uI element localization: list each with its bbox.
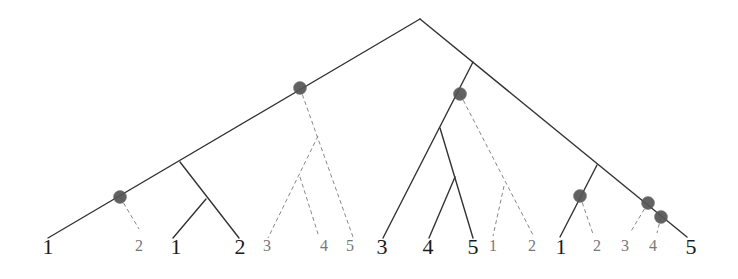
leaf-label: 3 [377,234,388,259]
leaf-label: 4 [649,237,657,254]
leaf-label: 2 [135,237,143,254]
leaf-label: 5 [346,237,354,254]
marked-node [294,82,307,95]
solid-edge [429,177,455,238]
leaf-labels: 12123453451212345 [43,234,697,259]
marked-node [574,190,587,203]
solid-edge [48,19,420,238]
leaf-label: 4 [423,234,434,259]
leaf-label: 1 [43,234,54,259]
solid-edge [440,128,473,238]
leaf-label: 1 [489,237,497,254]
leaf-label: 5 [468,234,479,259]
marked-node [454,88,467,101]
dashed-edge [268,136,318,238]
leaf-label: 5 [686,234,697,259]
marked-node [655,211,668,224]
leaf-label: 1 [171,234,182,259]
leaf-label: 1 [556,234,567,259]
marked-node [114,191,127,204]
dashed-edge [300,88,353,237]
leaf-label: 3 [263,237,271,254]
marked-node [642,197,655,210]
solid-edge [180,162,239,238]
leaf-label: 2 [593,237,601,254]
dashed-edge [460,94,533,235]
dashed-edge [493,186,504,236]
solid-edge [173,199,206,238]
leaf-label: 2 [528,237,536,254]
dashed-edge [300,177,319,237]
leaf-label: 3 [621,237,629,254]
leaf-label: 2 [235,234,246,259]
tree-edges [48,19,687,238]
tree-diagram: 12123453451212345 [0,0,738,279]
leaf-label: 4 [320,237,328,254]
